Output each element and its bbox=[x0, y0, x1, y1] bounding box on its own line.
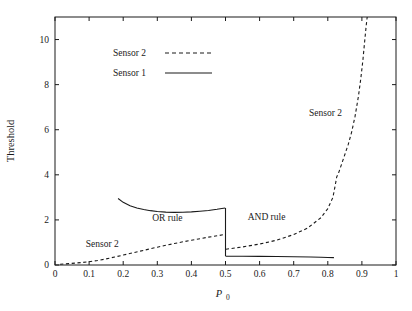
x-tick-label-9: 0.9 bbox=[356, 269, 368, 279]
x-tick-label-1: 0.1 bbox=[83, 269, 95, 279]
chart-annotations: Sensor 2OR ruleAND ruleSensor 2 bbox=[86, 108, 343, 250]
data-curves bbox=[60, 17, 367, 264]
y-axis-title-text: Threshold bbox=[5, 119, 16, 162]
x-tick-label-0: 0 bbox=[53, 269, 58, 279]
x-tick-label-4: 0.4 bbox=[185, 269, 197, 279]
x-tick-label-10: 1 bbox=[394, 269, 399, 279]
y-tick-label-5: 10 bbox=[40, 35, 50, 45]
x-axis-title: P 0 bbox=[215, 288, 230, 302]
x-axis-title-subscript: 0 bbox=[226, 293, 230, 302]
x-tick-label-5: 0.5 bbox=[220, 269, 232, 279]
y-tick-label-1: 2 bbox=[44, 215, 49, 225]
legend-label-0: Sensor 2 bbox=[113, 48, 146, 58]
threshold-vs-p0-chart: 00.10.20.30.40.50.60.70.80.91 0246810 Se… bbox=[0, 0, 412, 311]
y-tick-label-4: 8 bbox=[44, 80, 49, 90]
x-axis-title-text: P bbox=[215, 288, 223, 299]
x-tick-label-7: 0.7 bbox=[288, 269, 300, 279]
x-tick-label-6: 0.6 bbox=[254, 269, 266, 279]
annotation-sensor-2-0: Sensor 2 bbox=[86, 239, 119, 249]
legend-label-1: Sensor 1 bbox=[113, 68, 146, 78]
x-tick-label-3: 0.3 bbox=[151, 269, 163, 279]
x-tick-label-2: 0.2 bbox=[117, 269, 129, 279]
y-tick-label-3: 6 bbox=[44, 125, 49, 135]
y-tick-label-0: 0 bbox=[44, 260, 49, 270]
y-axis-tick-labels: 0246810 bbox=[40, 35, 50, 270]
y-axis-title: Threshold bbox=[5, 119, 16, 162]
y-tick-label-2: 4 bbox=[44, 170, 49, 180]
annotation-and-rule-2: AND rule bbox=[248, 212, 286, 222]
annotation-or-rule-1: OR rule bbox=[152, 213, 182, 223]
chart-legend: Sensor 2Sensor 1 bbox=[113, 48, 212, 78]
annotation-sensor-2-3: Sensor 2 bbox=[309, 108, 342, 118]
curve-sensor-1-0 bbox=[118, 198, 225, 212]
curve-sensor-1-1 bbox=[226, 256, 334, 257]
x-axis-tick-labels: 00.10.20.30.40.50.60.70.80.91 bbox=[53, 269, 399, 279]
chart-figure: 00.10.20.30.40.50.60.70.80.91 0246810 Se… bbox=[0, 0, 412, 311]
x-tick-label-8: 0.8 bbox=[322, 269, 334, 279]
